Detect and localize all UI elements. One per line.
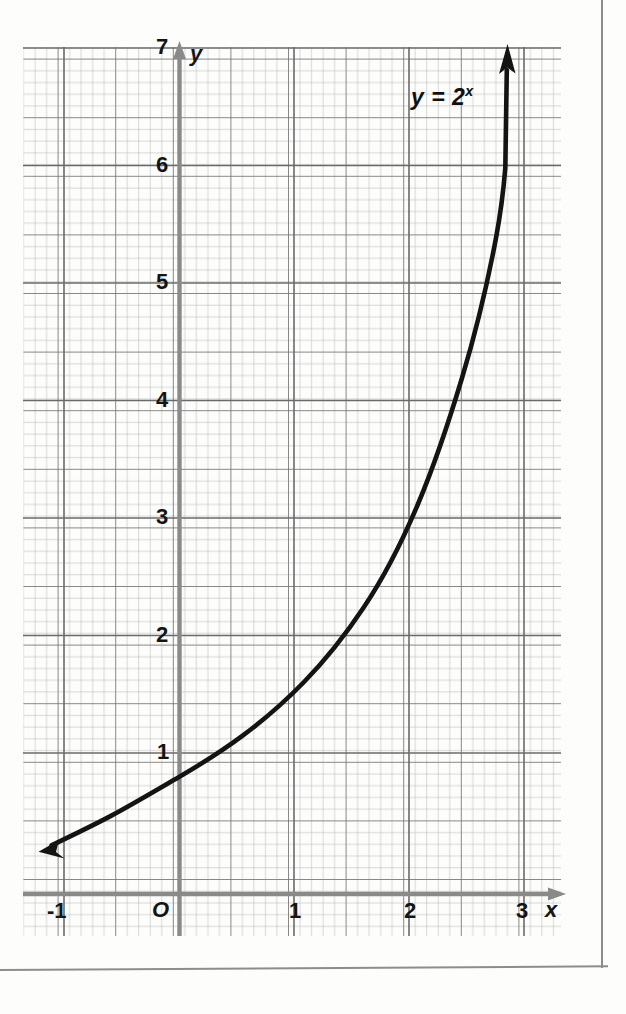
graph-figure: 7 6 5 4 3 2 1 -1 1 2 3 O x y y = 2x xyxy=(0,0,626,1014)
curve-equation-exponent: x xyxy=(465,83,473,99)
y-tick-label-6: 6 xyxy=(156,154,168,176)
y-tick-label-5: 5 xyxy=(156,271,168,293)
y-tick-label-2: 2 xyxy=(156,624,168,646)
x-tick-label-minus-1: -1 xyxy=(47,900,67,922)
x-tick-label-1: 1 xyxy=(289,900,301,922)
curve-equation-base: y = 2 xyxy=(411,84,465,110)
graph-plot-area xyxy=(0,0,626,1014)
y-axis-label: y xyxy=(190,43,202,65)
y-tick-label-3: 3 xyxy=(156,506,168,528)
curve-equation-label: y = 2x xyxy=(411,86,474,109)
y-tick-label-1: 1 xyxy=(157,741,169,763)
origin-label: O xyxy=(152,899,169,921)
y-tick-label-4: 4 xyxy=(156,389,168,411)
graph-paper-grid xyxy=(23,47,561,936)
x-axis-label: x xyxy=(545,899,557,921)
y-tick-label-7: 7 xyxy=(156,36,168,58)
x-tick-label-2: 2 xyxy=(404,900,416,922)
x-tick-label-3: 3 xyxy=(516,900,528,922)
page-border-right xyxy=(601,0,603,968)
page-canvas: 7 6 5 4 3 2 1 -1 1 2 3 O x y y = 2x xyxy=(0,0,626,1014)
